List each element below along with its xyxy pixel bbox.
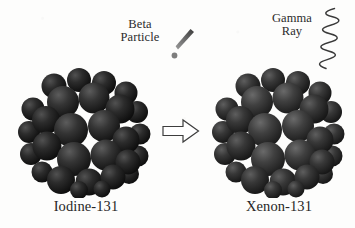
beta-particle-icon xyxy=(167,24,201,68)
xenon-131-label: Xenon-131 xyxy=(214,199,344,214)
xenon-131-nucleus xyxy=(208,62,350,198)
iodine-131-label: Iodine-131 xyxy=(21,199,151,214)
beta-particle-label: Beta Particle xyxy=(104,18,176,44)
beta-particle-label-line1: Beta xyxy=(104,18,176,31)
beta-particle-label-line2: Particle xyxy=(104,31,176,44)
iodine-131-nucleus xyxy=(16,62,156,198)
decay-arrow xyxy=(161,117,201,149)
decay-diagram: Beta Particle Gamma Ray xyxy=(0,0,355,228)
